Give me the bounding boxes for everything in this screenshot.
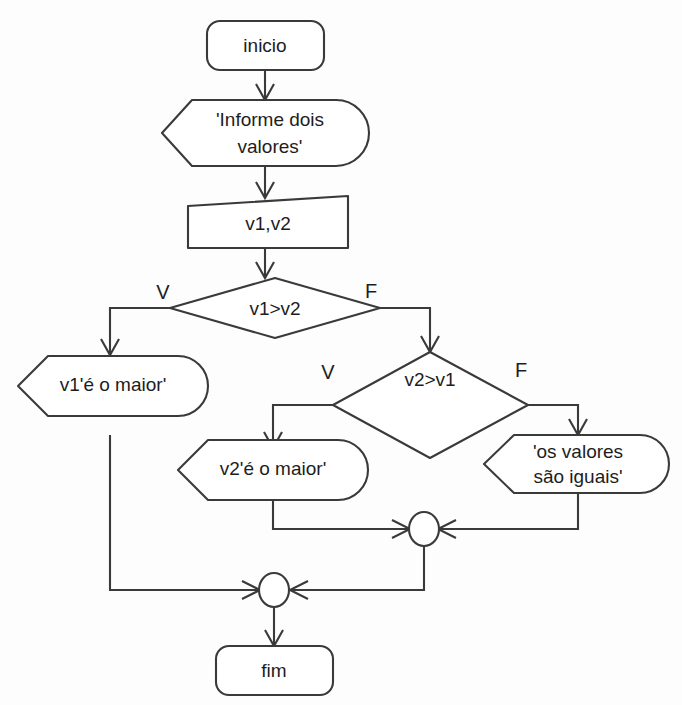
output-equal-label-line2: são iguais' xyxy=(533,466,622,487)
decision2-false-label: F xyxy=(515,359,527,381)
merge-inner-shape xyxy=(409,512,439,546)
output-v2-label: v2'é o maior' xyxy=(220,458,327,479)
node-output-equal[interactable]: 'os valores são iguais' xyxy=(484,435,669,493)
node-decision-2[interactable]: v2>v1 xyxy=(333,352,528,458)
node-output-v1[interactable]: v1'é o maior' xyxy=(18,356,208,416)
decision1-false-label: F xyxy=(365,280,377,302)
flowchart-svg: inicio 'Informe dois valores' v1,v2 v1>v… xyxy=(0,0,682,705)
start-label: inicio xyxy=(243,35,286,56)
node-input[interactable]: v1,v2 xyxy=(188,196,348,248)
edge-decision1-true xyxy=(110,308,170,355)
decision2-label: v2>v1 xyxy=(404,369,455,390)
node-merge-outer[interactable] xyxy=(259,573,289,607)
edge-decision1-false xyxy=(380,308,430,352)
node-merge-inner[interactable] xyxy=(409,512,439,546)
node-decision-1[interactable]: v1>v2 xyxy=(170,278,380,338)
end-label: fim xyxy=(261,660,286,681)
decision2-shape xyxy=(333,352,528,458)
flowchart-canvas: inicio 'Informe dois valores' v1,v2 v1>v… xyxy=(0,0,682,705)
node-prompt[interactable]: 'Informe dois valores' xyxy=(162,100,369,166)
prompt-label-line1: 'Informe dois xyxy=(216,109,324,130)
output-v1-label: v1'é o maior' xyxy=(60,374,167,395)
node-output-v2[interactable]: v2'é o maior' xyxy=(178,440,368,500)
merge-outer-shape xyxy=(259,573,289,607)
prompt-label-line2: valores' xyxy=(238,136,303,157)
node-start[interactable]: inicio xyxy=(207,21,324,70)
decision2-true-label: V xyxy=(321,361,335,383)
output-equal-label-line1: 'os valores xyxy=(533,441,623,462)
decision1-label: v1>v2 xyxy=(249,298,300,319)
decision1-true-label: V xyxy=(156,281,170,303)
edge-out-equal-to-merge-inner xyxy=(440,493,578,529)
input-label: v1,v2 xyxy=(245,213,290,234)
edge-merge-inner-to-merge-outer xyxy=(292,545,424,590)
node-end[interactable]: fim xyxy=(216,646,333,695)
